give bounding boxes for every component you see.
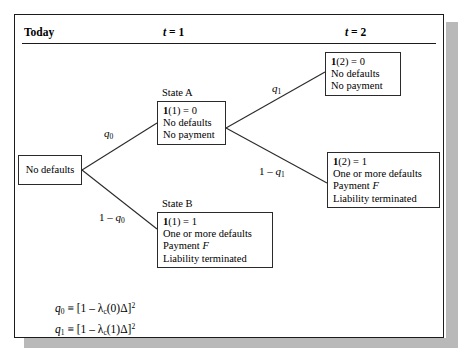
node-t2-down-line1: 1(2) = 1	[333, 156, 434, 168]
header-t1-value: = 1	[166, 26, 184, 38]
node-t2-down-indicator-rest: (2) = 1	[338, 156, 367, 167]
node-t2-up-indicator-rest: (2) = 0	[336, 56, 365, 67]
node-state-a-line1: 1(1) = 0	[163, 105, 220, 117]
formula-q1-exponent: 2	[131, 322, 135, 331]
figure-binomial-default-tree: Today t = 1 t = 2 No defaults State A 1(…	[0, 0, 466, 360]
node-t2-down-line3: Payment F	[333, 180, 434, 192]
formula-q1-args: (1)Δ]	[107, 323, 132, 335]
node-state-b-payment-prefix: Payment	[163, 240, 202, 251]
edge-label-1mq1-prefix: 1 –	[259, 165, 276, 177]
node-t2-down-line4: Liability terminated	[333, 193, 434, 205]
edge-label-q1: q1	[272, 83, 281, 96]
edge-label-q0: q0	[104, 128, 113, 141]
node-t2-up-line1: 1(2) = 0	[331, 56, 395, 68]
formula-definitions: q0 ≡ [1 – λc(0)Δ]2 q1 ≡ [1 – λc(1)Δ]2	[55, 298, 135, 340]
node-t2-down-payment-prefix: Payment	[333, 180, 372, 191]
header-label-t2: t = 2	[345, 27, 366, 39]
formula-q0: q0 ≡ [1 – λc(0)Δ]2	[55, 298, 135, 319]
figure-shadow-right	[446, 22, 458, 348]
header-rule	[22, 43, 436, 44]
node-t2-up: 1(2) = 0 No defaults No payment	[325, 52, 401, 96]
formula-q0-args: (0)Δ]	[107, 302, 132, 314]
edge-label-q1-sub: 1	[278, 87, 282, 96]
node-state-a-indicator-rest: (1) = 0	[168, 105, 197, 116]
node-state-b-line2: One or more defaults	[163, 228, 267, 240]
formula-q0-exponent: 2	[131, 301, 135, 310]
node-state-b-line4: Liability terminated	[163, 253, 267, 265]
node-t2-down-line2: One or more defaults	[333, 168, 434, 180]
header-label-today: Today	[24, 27, 54, 39]
edge-label-1mq1-sub: 1	[281, 170, 285, 179]
edge-label-q0-sub: 0	[110, 132, 114, 141]
edge-label-one-minus-q0: 1 – q0	[99, 212, 125, 225]
caption-state-b: State B	[162, 199, 193, 210]
edge-label-1mq0-sub: 0	[121, 216, 125, 225]
formula-q1-equiv: ≡ [1 – λ	[65, 323, 104, 335]
node-state-a-line2: No defaults	[163, 117, 220, 129]
node-state-b-payment-symbol: F	[202, 240, 208, 251]
edge-label-1mq0-prefix: 1 –	[99, 211, 116, 223]
node-state-a: 1(1) = 0 No defaults No payment	[157, 101, 226, 145]
header-t2-value: = 2	[348, 26, 366, 38]
node-t2-up-line3: No payment	[331, 80, 395, 92]
node-state-b-indicator-rest: (1) = 1	[168, 216, 197, 227]
formula-q0-equiv: ≡ [1 – λ	[65, 302, 104, 314]
formula-q1: q1 ≡ [1 – λc(1)Δ]2	[55, 319, 135, 340]
node-state-a-line3: No payment	[163, 129, 220, 141]
node-t2-down-payment-symbol: F	[372, 180, 378, 191]
node-state-b: 1(1) = 1 One or more defaults Payment F …	[157, 212, 273, 268]
node-t2-up-line2: No defaults	[331, 68, 395, 80]
edge-label-one-minus-q1: 1 – q1	[259, 166, 285, 179]
node-t2-down: 1(2) = 1 One or more defaults Payment F …	[327, 152, 440, 208]
node-root: No defaults	[18, 155, 82, 185]
header-label-t1: t = 1	[163, 27, 184, 39]
caption-state-a: State A	[162, 88, 193, 99]
node-root-label: No defaults	[26, 164, 75, 176]
node-state-b-line3: Payment F	[163, 240, 267, 252]
node-state-b-line1: 1(1) = 1	[163, 216, 267, 228]
